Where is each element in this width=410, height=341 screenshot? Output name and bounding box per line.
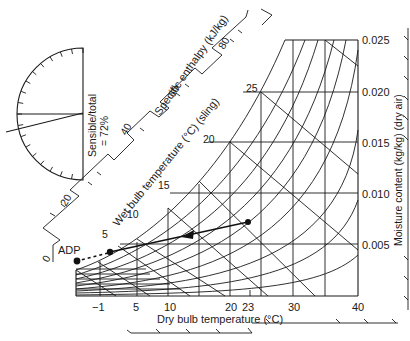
enthalpy-tick-20: 20 [57, 192, 73, 208]
x-tick-10: 10 [164, 301, 176, 313]
y-tick-0-020: 0.020 [362, 86, 390, 98]
ratio-label: Sensible/total [86, 94, 98, 157]
x-tick-40: 40 [352, 301, 364, 313]
x-tick-5: 5 [133, 301, 139, 313]
chart-area [76, 40, 358, 296]
x-tick-20: 20 [225, 301, 237, 313]
adp-point [74, 258, 81, 265]
adp-label: ADP [58, 244, 81, 256]
y-tick-0-005: 0.005 [362, 239, 390, 251]
enthalpy-tick-40: 40 [117, 121, 133, 137]
y-tick-0-015: 0.015 [362, 137, 390, 149]
wet-bulb-label: Wet bulb temperature (°C) (sling) [110, 95, 221, 228]
psychrometric-chart: Sensible/total = 72% 0 20 40 60 80 Speci… [0, 0, 410, 341]
enthalpy-tick-80: 80 [215, 35, 231, 51]
off-coil-point [107, 249, 113, 255]
wb-tick-15: 15 [158, 179, 170, 191]
x-tick-30: 30 [288, 301, 300, 313]
on-coil-point [245, 219, 251, 225]
y-axis-label: Moisture content (kg/kg) (dry air) [392, 94, 404, 246]
ratio-value: = 72% [98, 116, 110, 146]
x-tick-minus1: −1 [92, 301, 105, 313]
wb-tick-20: 20 [203, 133, 215, 145]
enthalpy-tick-0: 0 [39, 253, 52, 264]
wb-tick-25: 25 [246, 82, 258, 94]
protractor: Sensible/total = 72% [6, 48, 110, 180]
x-tick-23: 23 [242, 301, 254, 313]
wb-tick-5: 5 [102, 228, 108, 240]
y-tick-0-010: 0.010 [362, 188, 390, 200]
y-tick-0-025: 0.025 [362, 34, 390, 46]
